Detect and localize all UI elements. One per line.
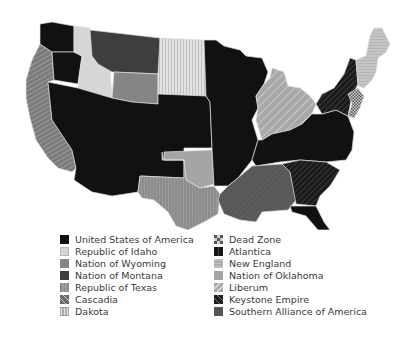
legend-item-deadzone: Dead Zone [214, 233, 367, 245]
swatch-idaho [60, 247, 69, 256]
legend-left: United States of America Republic of Ida… [60, 233, 194, 317]
swatch-oklahoma [214, 271, 223, 280]
legend-item-texas: Republic of Texas [60, 281, 194, 293]
swatch-deadzone [214, 235, 223, 244]
legend-label: Republic of Idaho [75, 246, 157, 257]
region-florida [290, 206, 330, 230]
swatch-cascadia [60, 295, 69, 304]
legend-label: Atlantica [229, 246, 271, 257]
swatch-wyoming [60, 259, 69, 268]
legend-item-cascadia: Cascadia [60, 293, 194, 305]
legend-label: Cascadia [75, 294, 118, 305]
us-factions-map [0, 0, 415, 230]
region-oregon [52, 52, 82, 84]
legend-item-atlantica: Atlantica [214, 245, 367, 257]
region-dakota [158, 38, 206, 96]
legend-item-usa: United States of America [60, 233, 194, 245]
legend-item-liberum: Liberum [214, 281, 367, 293]
swatch-texas [60, 283, 69, 292]
swatch-liberum [214, 283, 223, 292]
legend-item-newengland: New England [214, 257, 367, 269]
legend-label: Keystone Empire [229, 294, 309, 305]
legend-label: Dead Zone [229, 234, 281, 245]
legend-item-wyoming: Nation of Wyoming [60, 257, 194, 269]
legend-label: United States of America [75, 234, 194, 245]
legend-label: Nation of Montana [75, 270, 163, 281]
legend-item-dakota: Dakota [60, 305, 194, 317]
legend-label: New England [229, 258, 291, 269]
swatch-newengland [214, 259, 223, 268]
legend-label: Dakota [75, 306, 109, 317]
legend-item-montana: Nation of Montana [60, 269, 194, 281]
legend-right: Dead Zone Atlantica New England Nation o… [214, 233, 367, 317]
legend-label: Southern Alliance of America [229, 306, 367, 317]
swatch-usa [60, 235, 69, 244]
swatch-atlantica [214, 247, 223, 256]
region-washington [40, 22, 74, 52]
legend-label: Nation of Oklahoma [229, 270, 324, 281]
legend-item-oklahoma: Nation of Oklahoma [214, 269, 367, 281]
swatch-montana [60, 271, 69, 280]
legend-label: Nation of Wyoming [75, 258, 166, 269]
swatch-keystone [214, 295, 223, 304]
region-new-england [356, 28, 390, 88]
swatch-dakota [60, 307, 69, 316]
legend-item-idaho: Republic of Idaho [60, 245, 194, 257]
legend-item-southern: Southern Alliance of America [214, 305, 367, 317]
swatch-southern [214, 307, 223, 316]
legend-label: Liberum [229, 282, 268, 293]
legend-item-keystone: Keystone Empire [214, 293, 367, 305]
legend-label: Republic of Texas [75, 282, 157, 293]
